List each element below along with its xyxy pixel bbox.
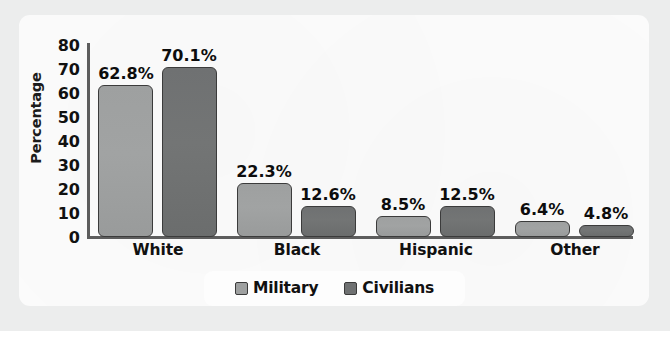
bar-civilians-black — [301, 206, 356, 237]
y-tick-label-50: 50 — [38, 110, 80, 126]
legend-label-civilians: Civilians — [362, 281, 434, 297]
x-tick-label-black: Black — [236, 243, 358, 259]
bar-military-white — [98, 85, 153, 237]
bar-military-other — [515, 221, 570, 237]
y-tick-label-70: 70 — [38, 62, 80, 78]
y-tick-label-40: 40 — [38, 134, 80, 150]
bar-civilians-white — [162, 67, 217, 237]
legend-label-military: Military — [253, 281, 318, 297]
y-tick-label-80: 80 — [38, 38, 80, 54]
bar-civilians-hispanic — [440, 206, 495, 237]
bar-value-civilians-black: 12.6% — [292, 187, 364, 203]
bar-value-civilians-hispanic: 12.5% — [431, 187, 503, 203]
y-tick-label-20: 20 — [38, 182, 80, 198]
military-swatch-icon — [235, 282, 248, 295]
y-tick-label-0: 0 — [38, 230, 80, 246]
legend-item-civilians[interactable]: Civilians — [344, 281, 434, 297]
chart-screenshot: Percentage 80 70 60 50 40 30 20 10 0 62.… — [0, 0, 670, 355]
bar-civilians-other — [579, 225, 634, 237]
bar-value-military-other: 6.4% — [506, 202, 578, 218]
chart-legend: Military Civilians — [204, 271, 465, 306]
y-tick-label-60: 60 — [38, 86, 80, 102]
x-tick-label-hispanic: Hispanic — [375, 243, 497, 259]
bar-value-military-black: 22.3% — [228, 164, 300, 180]
bar-military-black — [237, 183, 292, 237]
y-tick-label-10: 10 — [38, 206, 80, 222]
bar-value-military-hispanic: 8.5% — [367, 197, 439, 213]
bar-military-hispanic — [376, 216, 431, 237]
bar-value-civilians-white: 70.1% — [153, 48, 225, 64]
x-tick-label-other: Other — [514, 243, 636, 259]
bar-value-military-white: 62.8% — [90, 66, 162, 82]
y-tick-label-30: 30 — [38, 158, 80, 174]
x-tick-label-white: White — [97, 243, 219, 259]
civilians-swatch-icon — [344, 282, 357, 295]
bar-value-civilians-other: 4.8% — [570, 206, 642, 222]
legend-item-military[interactable]: Military — [235, 281, 318, 297]
